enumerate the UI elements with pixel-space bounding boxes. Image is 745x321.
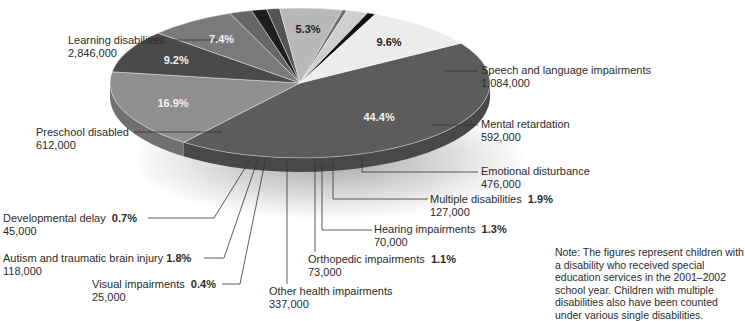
chart-note: Note: The figures represent children wit… (555, 246, 745, 321)
label-orthopedic-impairments: Orthopedic impairments 1.1% 73,000 (308, 253, 456, 279)
label-hearing-impairments: Hearing impairments 1.3% 70,000 (374, 223, 507, 249)
label-emotional-disturbance: Emotional disturbance 476,000 (481, 165, 590, 191)
label-value: 612,000 (36, 139, 76, 151)
label-autism-tbi: Autism and traumatic brain injury 1.8% 1… (3, 252, 191, 278)
label-developmental-delay: Developmental delay 0.7% 45,000 (3, 212, 137, 238)
label-percent: 1.9% (528, 193, 553, 205)
label-name: Autism and traumatic brain injury (3, 252, 163, 264)
label-name: Speech and language impairments (481, 64, 651, 76)
label-name: Hearing impairments (374, 223, 475, 235)
label-speech-language: Speech and language impairments 1,084,00… (481, 64, 651, 90)
label-value: 476,000 (481, 178, 521, 190)
label-name: Multiple disabilities (430, 193, 522, 205)
label-value: 337,000 (269, 298, 309, 310)
label-value: 127,000 (430, 206, 470, 218)
label-percent: 1.1% (431, 253, 456, 265)
pie-percent-other: 5.3% (296, 23, 321, 35)
label-value: 70,000 (374, 236, 408, 248)
label-name: Learning disabilities (68, 34, 165, 46)
label-preschool-disabled: Preschool disabled 612,000 (36, 126, 129, 152)
label-name: Orthopedic impairments (308, 253, 425, 265)
label-name: Emotional disturbance (481, 165, 590, 177)
label-learning-disabilities: Learning disabilities 2,846,000 (68, 34, 165, 60)
label-value: 45,000 (3, 225, 37, 237)
pie-percent-speech: 16.9% (157, 97, 188, 109)
pie-percent-preschool: 9.6% (377, 36, 402, 48)
label-multiple-disabilities: Multiple disabilities 1.9% 127,000 (430, 193, 553, 219)
label-percent: 0.4% (191, 278, 216, 290)
pie-percent-learning: 44.4% (363, 111, 394, 123)
pie-percent-mental: 9.2% (164, 54, 189, 66)
label-value: 1,084,000 (481, 77, 530, 89)
label-name: Preschool disabled (36, 126, 129, 138)
label-percent: 0.7% (112, 212, 137, 224)
label-value: 118,000 (3, 265, 42, 277)
label-value: 592,000 (481, 131, 521, 143)
label-other-health-impairments: Other health impairments 337,000 (269, 285, 393, 311)
label-percent: 1.8% (166, 252, 191, 264)
label-percent: 1.3% (482, 223, 507, 235)
label-name: Mental retardation (481, 118, 570, 130)
label-value: 2,846,000 (68, 47, 117, 59)
pie-percent-emotional: 7.4% (209, 33, 234, 45)
label-name: Developmental delay (3, 212, 106, 224)
label-value: 25,000 (92, 291, 126, 303)
label-name: Visual impairments (92, 278, 185, 290)
label-name: Other health impairments (269, 285, 393, 297)
label-value: 73,000 (308, 266, 342, 278)
label-mental-retardation: Mental retardation 592,000 (481, 118, 570, 144)
label-visual-impairments: Visual impairments 0.4% 25,000 (92, 278, 216, 304)
